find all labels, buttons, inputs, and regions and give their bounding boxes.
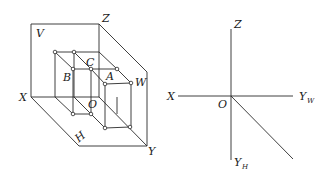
oy-axis [99,97,147,146]
label-v-plane: V [36,27,45,40]
label-point-b: B [62,71,71,84]
label-origin: O [88,98,97,111]
label-z: Z [233,18,242,31]
label-point-c: C [86,56,95,69]
label-z-axis: Z [101,12,110,25]
unfolded-axes: Z X O Y W Y H [166,18,315,171]
label-x-axis: X [18,91,28,104]
label-yh-subscript: H [241,163,249,171]
label-o: O [218,98,227,111]
label-point-a: A [105,70,114,83]
label-w-plane: W [135,76,148,89]
point-b [71,67,75,71]
label-yw-subscript: W [307,97,315,105]
label-y-axis: Y [148,145,157,158]
label-h-plane: H [72,129,89,146]
diagonal-45-line [231,96,293,159]
pictorial-projection-system: V Z X C B A W O Y H [18,12,157,158]
projection-diagram: V Z X C B A W O Y H Z X O Y W Y H [0,0,326,182]
label-x: X [166,90,176,103]
